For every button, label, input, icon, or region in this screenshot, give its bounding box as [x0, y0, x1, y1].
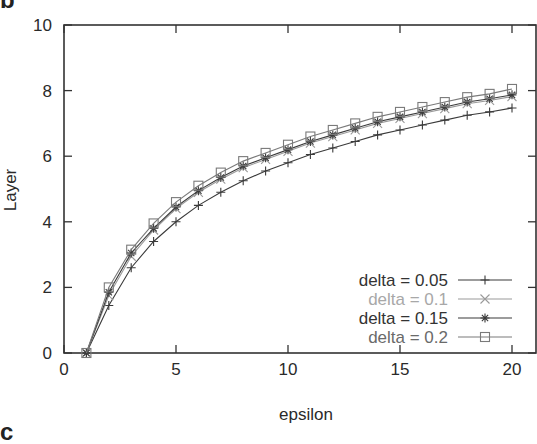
x-axis-title: epsilon [279, 405, 333, 424]
x-tick-label: 5 [171, 360, 180, 379]
plus-marker [216, 188, 225, 197]
plus-marker [351, 137, 360, 146]
plus-marker [194, 201, 203, 210]
series-line [86, 89, 512, 353]
y-tick-label: 10 [33, 16, 52, 35]
plus-marker [418, 121, 427, 130]
next-panel-label: c [0, 418, 13, 444]
x-tick-label: 20 [503, 360, 522, 379]
star-marker [508, 90, 517, 99]
legend-label: delta = 0.1 [368, 290, 448, 309]
plus-marker [306, 150, 315, 159]
x-tick-label: 15 [391, 360, 410, 379]
plus-marker [481, 276, 490, 285]
plus-marker [463, 111, 472, 120]
plus-marker [261, 166, 270, 175]
y-tick-label: 6 [43, 147, 52, 166]
y-tick-label: 4 [43, 213, 52, 232]
series-line [86, 95, 512, 353]
chart-axes: 051015200246810 [33, 16, 536, 379]
series-line [86, 97, 512, 353]
plus-marker [396, 125, 405, 134]
y-tick-label: 0 [43, 344, 52, 363]
chart-series [82, 84, 517, 357]
series-line [86, 108, 512, 353]
x-tick-label: 10 [279, 360, 298, 379]
plus-marker [239, 176, 248, 185]
y-axis-title: Layer [1, 168, 20, 211]
series-delta-0-15 [82, 90, 517, 357]
legend-label: delta = 0.15 [359, 309, 448, 328]
legend-label: delta = 0.05 [359, 271, 448, 290]
star-marker [481, 314, 490, 323]
plus-marker [284, 158, 293, 167]
plus-marker [508, 103, 517, 112]
y-tick-label: 2 [43, 278, 52, 297]
legend-label: delta = 0.2 [368, 328, 448, 347]
plus-marker [485, 107, 494, 116]
plus-marker [373, 130, 382, 139]
x-tick-label: 0 [59, 360, 68, 379]
chart-legend: delta = 0.05delta = 0.1delta = 0.15delta… [359, 271, 512, 347]
plot-frame [64, 25, 536, 353]
plus-marker [440, 116, 449, 125]
plus-marker [328, 144, 337, 153]
series-delta-0-2 [82, 84, 517, 357]
series-delta-0-1 [82, 92, 517, 357]
y-tick-label: 8 [43, 82, 52, 101]
